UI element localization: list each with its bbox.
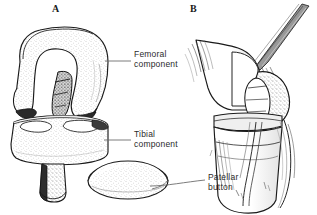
patellar-button-drawing (88, 161, 168, 199)
implanted-knee-drawing (185, 4, 309, 213)
figure-canvas: A B Femoral component Tibial component P… (0, 0, 317, 215)
label-femoral-component: Femoral component (134, 50, 178, 69)
panel-letter-b: B (190, 3, 197, 14)
femoral-component-drawing (13, 27, 108, 120)
tibial-implant-b (214, 113, 282, 131)
illustration-svg (0, 0, 317, 215)
panel-letter-a: A (52, 3, 59, 14)
label-patellar-button: Patellar button (208, 173, 238, 192)
label-tibial-component: Tibial component (134, 130, 178, 149)
